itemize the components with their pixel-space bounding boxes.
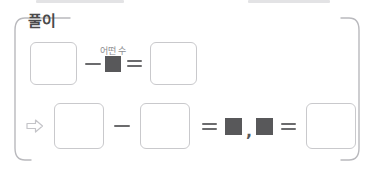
equals-operator-icon bbox=[281, 123, 296, 130]
minus-operator-icon bbox=[114, 125, 130, 127]
minus-operator-icon bbox=[85, 63, 101, 65]
blank-box-1b[interactable] bbox=[150, 42, 197, 85]
unknown-value-group: 어떤 수 bbox=[105, 56, 121, 72]
blank-box-1a[interactable] bbox=[30, 42, 77, 85]
equals-operator-icon bbox=[202, 123, 217, 130]
page-title: 풀이 bbox=[28, 14, 56, 29]
clipped-fragment-right bbox=[248, 0, 330, 3]
equals-operator-icon bbox=[127, 60, 142, 67]
solution-panel: 풀이 어떤 수 , bbox=[0, 8, 374, 173]
equation-line-2: , bbox=[26, 103, 356, 149]
blank-box-2b[interactable] bbox=[140, 103, 190, 149]
arrow-right-icon bbox=[26, 118, 44, 134]
unknown-square-2[interactable] bbox=[225, 118, 242, 135]
unknown-square-1[interactable] bbox=[105, 56, 121, 72]
blank-box-2a[interactable] bbox=[54, 103, 104, 149]
equation-line-1: 어떤 수 bbox=[30, 42, 197, 85]
unknown-square-3[interactable] bbox=[256, 118, 273, 135]
blank-box-2c[interactable] bbox=[306, 103, 356, 149]
unknown-label: 어떤 수 bbox=[100, 47, 127, 56]
clipped-fragment-left bbox=[36, 0, 124, 3]
